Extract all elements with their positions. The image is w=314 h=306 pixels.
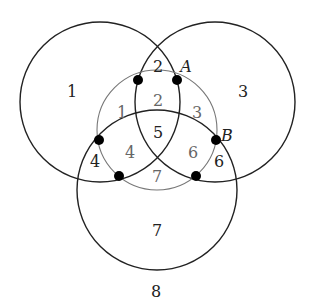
vertex-dot [94,135,104,145]
vertex-dot [172,75,182,85]
inner-region-label: 1 [117,103,127,122]
region-label: 3 [238,82,248,101]
inner-region-label: 7 [152,167,162,186]
inner-region-label: 4 [125,143,135,162]
point-label: B [220,126,233,145]
inner-region-label: 6 [188,143,198,162]
vertex-dot [133,75,143,85]
region-label: 4 [90,152,100,171]
inner-region-label: 3 [192,103,202,122]
inner-region-label: 2 [153,91,163,110]
labels-group: 12354678123467AB [67,57,248,301]
vertex-dot [211,135,221,145]
region-label: 1 [67,82,77,101]
region-label: 7 [152,221,162,240]
venn-graph-diagram: 12354678123467AB [0,0,314,306]
diagram-svg: 12354678123467AB [0,0,314,306]
vertex-dot [191,171,201,181]
region-label: 6 [214,152,224,171]
region-label: 8 [151,282,161,301]
vertex-dot [114,171,124,181]
point-label: A [178,57,192,76]
region-label: 2 [153,57,163,76]
region-label: 5 [153,123,163,142]
